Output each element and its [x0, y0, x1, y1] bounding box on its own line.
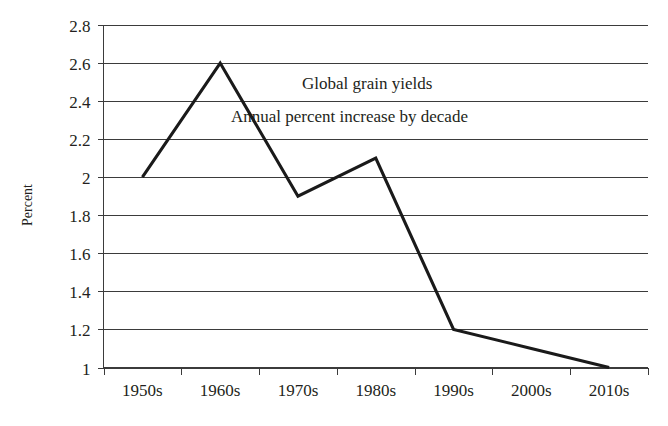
y-tick-label: 1.6 [69, 245, 90, 264]
y-tick-label: 1.8 [69, 207, 90, 226]
y-tick-label: 2.6 [69, 55, 90, 74]
y-tick-label: 2 [82, 169, 91, 188]
line-chart: 2.82.62.42.221.81.61.41.21 1950s1960s197… [0, 0, 668, 426]
y-tick-label: 2.2 [69, 131, 90, 150]
x-tick-label: 1960s [200, 381, 241, 400]
x-tick-label: 1950s [122, 381, 163, 400]
chart-page: 2.82.62.42.221.81.61.41.21 1950s1960s197… [0, 0, 668, 426]
x-tick-label: 2000s [511, 381, 552, 400]
y-tick-label: 2.8 [69, 17, 90, 36]
annotation-title: Global grain yields [302, 74, 432, 93]
y-tick-label: 2.4 [69, 93, 91, 112]
y-tick-label: 1 [82, 360, 91, 379]
x-tick-label: 1990s [433, 381, 474, 400]
x-tick-label: 2010s [589, 381, 630, 400]
y-axis-title: Percent [20, 184, 35, 226]
x-tick-label: 1980s [355, 381, 396, 400]
x-tick-label: 1970s [278, 381, 319, 400]
y-tick-label: 1.2 [69, 321, 90, 340]
annotation-subtitle: Annual percent increase by decade [231, 107, 468, 126]
y-tick-label: 1.4 [69, 283, 91, 302]
